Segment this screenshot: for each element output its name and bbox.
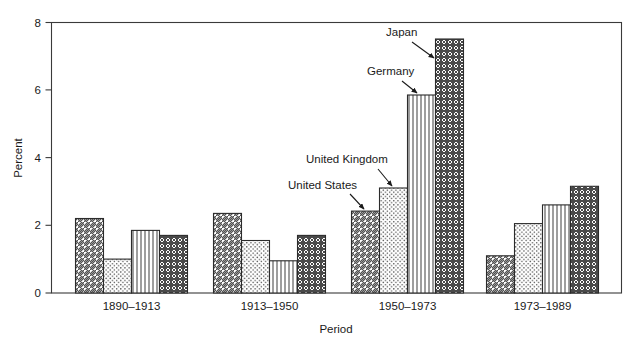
bar-1913-1950-united-kingdom xyxy=(242,241,270,294)
y-tick-label-4: 4 xyxy=(35,152,42,164)
annotation-label-united-states: United States xyxy=(288,179,357,191)
bar-chart-figure: 0 2 4 6 8 Percent xyxy=(0,0,638,344)
chart-canvas: 0 2 4 6 8 Percent xyxy=(0,0,638,344)
bar-1890-1913-germany xyxy=(132,230,160,293)
bar-1973-1989-united-states xyxy=(487,256,515,293)
bar-1973-1989-germany xyxy=(543,205,571,293)
bar-1973-1989-japan xyxy=(571,186,599,293)
annotation-label-united-kingdom: United Kingdom xyxy=(306,153,388,165)
y-tick-label-0: 0 xyxy=(35,287,41,299)
bar-1890-1913-japan xyxy=(160,235,188,293)
x-tick-label-1973-1989: 1973–1989 xyxy=(514,300,572,312)
x-axis-title: Period xyxy=(319,323,352,335)
annotation-label-japan: Japan xyxy=(386,26,417,38)
x-tick-label-1913-1950: 1913–1950 xyxy=(241,300,299,312)
bar-1950-1973-united-states xyxy=(352,211,380,293)
y-axis-title: Percent xyxy=(12,137,24,177)
y-tick-label-2: 2 xyxy=(35,219,41,231)
bar-1913-1950-united-states xyxy=(214,213,242,293)
x-tick-label-1950-1973: 1950–1973 xyxy=(379,300,437,312)
y-tick-label-8: 8 xyxy=(35,17,41,29)
bar-1913-1950-germany xyxy=(270,261,298,293)
y-tick-label-6: 6 xyxy=(35,84,41,96)
x-tick-label-1890-1913: 1890–1913 xyxy=(103,300,161,312)
bar-1950-1973-japan xyxy=(436,39,464,293)
bar-1890-1913-united-kingdom xyxy=(104,259,132,293)
bar-1890-1913-united-states xyxy=(76,219,104,294)
bar-1913-1950-japan xyxy=(298,235,326,293)
bar-1950-1973-germany xyxy=(408,95,436,293)
bar-1950-1973-united-kingdom xyxy=(380,188,408,293)
bar-1973-1989-united-kingdom xyxy=(515,224,543,293)
annotation-label-germany: Germany xyxy=(367,65,415,77)
